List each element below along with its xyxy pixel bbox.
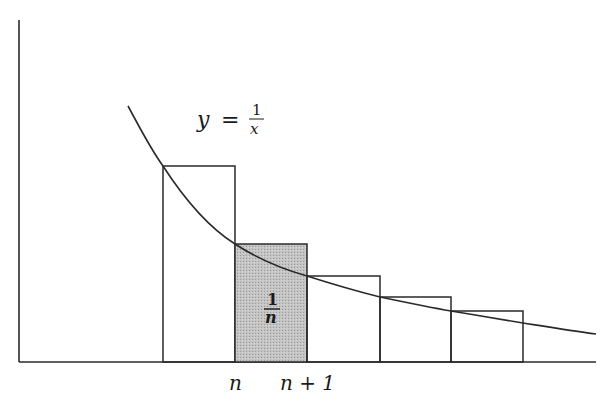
- curve-one-over-x: [128, 106, 596, 334]
- rect-upper-sum-5: [451, 311, 523, 362]
- shaded-label-den: n: [265, 308, 277, 327]
- rect-upper-sum-3: [307, 276, 380, 362]
- harmonic-series-diagram: y = 1 x 1 n n n + 1: [0, 0, 608, 410]
- rect-upper-sum-4: [380, 297, 451, 362]
- curve-label-num: 1: [252, 101, 262, 119]
- x-label-n: n: [229, 371, 242, 395]
- curve-label-den: x: [250, 120, 259, 138]
- x-label-n-plus-1: n + 1: [280, 371, 335, 395]
- rect-upper-sum-1: [163, 166, 235, 362]
- shaded-label-num: 1: [267, 290, 278, 309]
- curve-label-eq: =: [221, 107, 239, 132]
- curve-label-lhs: y: [196, 107, 210, 132]
- curve-label: y = 1 x: [196, 101, 264, 138]
